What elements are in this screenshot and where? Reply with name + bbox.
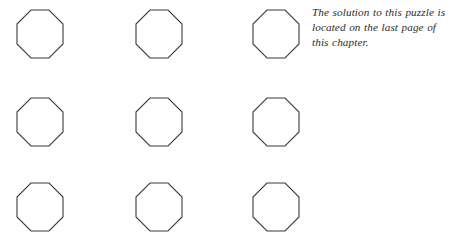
octagon-icon	[252, 182, 300, 232]
solution-note-line-2: located on the last page of	[312, 20, 452, 35]
octagon-icon	[135, 97, 183, 147]
octagon-icon	[252, 9, 300, 59]
octagon-cell-r1c1[interactable]	[16, 9, 64, 59]
octagon-cell-r1c3[interactable]	[252, 9, 300, 59]
puzzle-page: The solution to this puzzle is located o…	[0, 0, 461, 249]
octagon-icon	[16, 9, 64, 59]
solution-note-line-1: The solution to this puzzle is	[312, 5, 452, 20]
octagon-cell-r2c2[interactable]	[135, 97, 183, 147]
octagon-cell-r2c3[interactable]	[252, 97, 300, 147]
solution-note-line-3: this chapter.	[312, 35, 452, 50]
octagon-cell-r1c2[interactable]	[135, 9, 183, 59]
octagon-icon	[135, 182, 183, 232]
octagon-icon	[16, 182, 64, 232]
octagon-grid	[0, 0, 320, 249]
octagon-icon	[16, 97, 64, 147]
solution-note: The solution to this puzzle is located o…	[312, 5, 452, 51]
octagon-cell-r3c2[interactable]	[135, 182, 183, 232]
octagon-cell-r2c1[interactable]	[16, 97, 64, 147]
octagon-cell-r3c3[interactable]	[252, 182, 300, 232]
octagon-icon	[135, 9, 183, 59]
octagon-cell-r3c1[interactable]	[16, 182, 64, 232]
octagon-icon	[252, 97, 300, 147]
